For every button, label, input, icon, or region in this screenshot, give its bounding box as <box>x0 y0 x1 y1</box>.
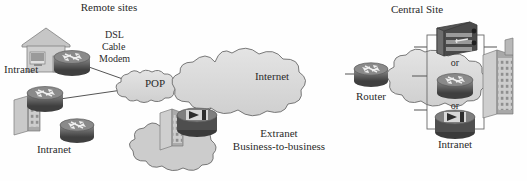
label-intranet-branch: Intranet <box>37 144 71 156</box>
label-internet: Internet <box>255 71 289 83</box>
label-cable: Cable <box>102 42 125 53</box>
label-pop: POP <box>145 78 165 90</box>
central-building-icon <box>483 38 513 118</box>
label-central-site: Central Site <box>391 4 443 16</box>
router-icon-branch <box>27 87 63 113</box>
label-business-to-business: Business-to-business <box>233 141 325 153</box>
label-or-bottom: or <box>451 101 459 112</box>
label-router: Router <box>356 91 386 103</box>
label-remote-sites: Remote sites <box>81 2 138 14</box>
diagram-canvas <box>0 0 527 181</box>
label-or-top: or <box>451 58 459 69</box>
label-extranet: Extranet <box>260 128 297 140</box>
router-icon-home <box>54 51 90 77</box>
firewall-icon-central <box>435 110 475 139</box>
router-icon-edge <box>354 63 388 87</box>
label-dsl: DSL <box>105 30 124 41</box>
switch-icon-central <box>437 22 477 56</box>
label-intranet-central: Intranet <box>438 139 472 151</box>
router-icon-intranet <box>60 119 94 143</box>
label-modem: Modem <box>99 54 130 65</box>
router-icon-central <box>437 74 473 100</box>
network-diagram: Remote sites DSL Cable Modem Intranet In… <box>0 0 527 181</box>
firewall-icon-extranet <box>177 108 217 137</box>
label-intranet-home: Intranet <box>4 64 38 76</box>
